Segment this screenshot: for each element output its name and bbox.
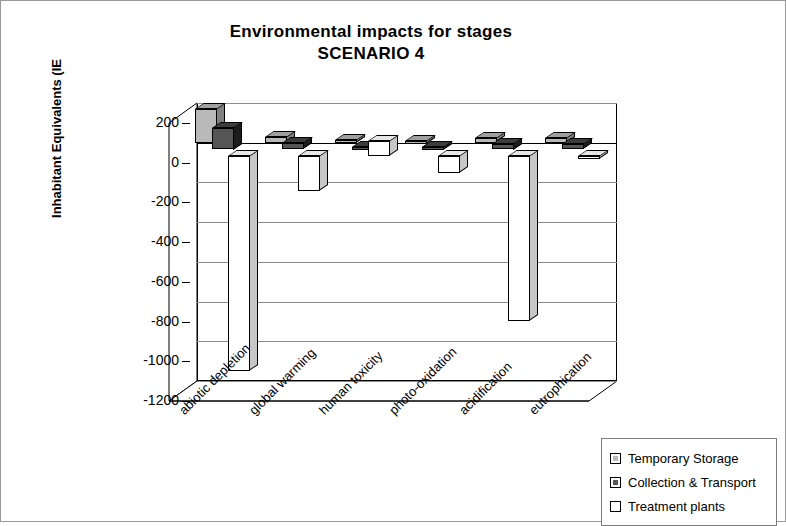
x-axis-category-label: acidification [456,359,515,418]
legend-label: Treatment plants [628,499,725,514]
legend: Temporary StorageCollection & TransportT… [601,438,777,526]
legend-item[interactable]: Treatment plants [610,494,770,518]
x-axis-category-label: global warming [246,345,318,417]
x-axis-category-label: eutrophication [526,349,594,417]
legend-swatch-icon [610,501,621,512]
legend-label: Collection & Transport [628,475,756,490]
x-axis-category-label: human toxicity [316,348,385,417]
legend-swatch-icon [610,477,621,488]
legend-label: Temporary Storage [628,451,739,466]
x-axis-category-label: abiotic depletion [176,341,253,418]
legend-item[interactable]: Collection & Transport [610,470,770,494]
legend-swatch-icon [610,453,621,464]
x-axis-category-label: photo-oxidation [386,344,459,417]
legend-item[interactable]: Temporary Storage [610,446,770,470]
